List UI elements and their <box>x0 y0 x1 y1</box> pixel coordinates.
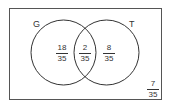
numerator: 2 <box>83 44 87 52</box>
numerator: 7 <box>151 80 155 88</box>
denominator: 35 <box>149 91 158 99</box>
region-t-only: 8 35 <box>103 44 115 63</box>
denominator: 35 <box>58 55 67 63</box>
region-neither: 7 35 <box>147 80 159 99</box>
region-both: 2 35 <box>79 44 91 63</box>
numerator: 18 <box>58 44 67 52</box>
denominator: 35 <box>81 55 90 63</box>
set-t-label: T <box>129 20 135 29</box>
region-g-only: 18 35 <box>56 44 68 63</box>
numerator: 8 <box>107 44 111 52</box>
denominator: 35 <box>105 55 114 63</box>
set-g-label: G <box>33 20 40 29</box>
